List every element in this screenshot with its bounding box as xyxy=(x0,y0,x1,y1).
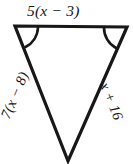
side-label-top: 5(x − 3) xyxy=(27,3,80,19)
geometry-figure: 5(x − 3) 7(x − 8) x + 16 xyxy=(0,0,133,164)
